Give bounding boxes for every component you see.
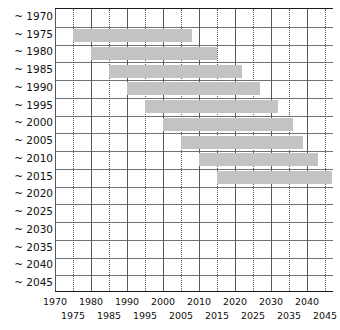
- y-axis-label: ~ 1980: [1, 46, 53, 57]
- bar-1985: [109, 65, 242, 78]
- gridline-horizontal: [55, 222, 333, 223]
- gridline-horizontal: [55, 151, 333, 152]
- x-axis-label-major: 1990: [107, 296, 147, 307]
- y-axis-label: ~ 2005: [1, 135, 53, 146]
- gridline-horizontal: [55, 275, 333, 276]
- plot-area: [55, 8, 333, 292]
- horizontal-gridlines: [55, 9, 333, 291]
- gridline-major-2020: [235, 9, 236, 291]
- gridline-major-1980: [91, 9, 92, 291]
- x-axis-label-major: 2020: [215, 296, 255, 307]
- y-axis-label: ~ 2010: [1, 153, 53, 164]
- gridline-major-1970: [55, 9, 56, 291]
- gridline-horizontal: [55, 187, 333, 188]
- gridline-minor-2015: [217, 9, 218, 291]
- gridline-horizontal: [55, 80, 333, 81]
- gridline-horizontal: [55, 204, 333, 205]
- x-axis-label-minor: 1975: [53, 310, 93, 321]
- x-axis-label-major: 2040: [287, 296, 327, 307]
- x-axis-label-minor: 1985: [89, 310, 129, 321]
- y-axis-label: ~ 2025: [1, 206, 53, 217]
- x-axis-label-major: 2000: [143, 296, 183, 307]
- x-axis-label-major: 2010: [179, 296, 219, 307]
- gridline-minor-2025: [253, 9, 254, 291]
- gridline-horizontal: [55, 27, 333, 28]
- bar-2005: [181, 136, 303, 149]
- x-axis-label-minor: 2015: [197, 310, 237, 321]
- y-axis-label: ~ 1995: [1, 100, 53, 111]
- bar-1995: [145, 100, 278, 113]
- gridline-minor-1995: [145, 9, 146, 291]
- y-axis-label: ~ 1975: [1, 29, 53, 40]
- x-axis-label-minor: 2025: [233, 310, 273, 321]
- gridline-horizontal: [55, 98, 333, 99]
- y-axis-label: ~ 2015: [1, 171, 53, 182]
- bar-2010: [199, 153, 318, 166]
- gridline-minor-2035: [289, 9, 290, 291]
- y-axis-label: ~ 2035: [1, 242, 53, 253]
- gridline-horizontal: [55, 240, 333, 241]
- gridline-major-2040: [307, 9, 308, 291]
- x-axis-label-major: 1970: [35, 296, 75, 307]
- gridline-minor-1975: [73, 9, 74, 291]
- y-axis-label: ~ 2020: [1, 188, 53, 199]
- y-axis-label: ~ 2040: [1, 259, 53, 270]
- gridline-major-1990: [127, 9, 128, 291]
- chart-container: ~ 1970~ 1975~ 1980~ 1985~ 1990~ 1995~ 20…: [0, 0, 340, 330]
- bar-2000: [163, 118, 293, 131]
- gridline-minor-2045: [325, 9, 326, 291]
- gridline-horizontal: [55, 62, 333, 63]
- y-axis-label: ~ 1970: [1, 11, 53, 22]
- bar-1975: [73, 29, 192, 42]
- gridline-major-2030: [271, 9, 272, 291]
- x-axis-label-minor: 1995: [125, 310, 165, 321]
- gridline-minor-2005: [181, 9, 182, 291]
- bars-layer: [55, 9, 333, 291]
- y-axis-label: ~ 1985: [1, 64, 53, 75]
- y-axis-label: ~ 2030: [1, 224, 53, 235]
- gridline-minor-1985: [109, 9, 110, 291]
- gridline-major-2010: [199, 9, 200, 291]
- gridline-horizontal: [55, 116, 333, 117]
- x-axis-label-major: 2030: [251, 296, 291, 307]
- gridline-major-2000: [163, 9, 164, 291]
- y-axis-label: ~ 1990: [1, 82, 53, 93]
- x-axis-label-minor: 2045: [305, 310, 340, 321]
- gridline-horizontal: [55, 133, 333, 134]
- y-axis-label: ~ 2000: [1, 117, 53, 128]
- y-axis-label: ~ 2045: [1, 277, 53, 288]
- vertical-gridlines: [55, 9, 333, 291]
- x-axis-label-major: 1980: [71, 296, 111, 307]
- x-axis-label-minor: 2035: [269, 310, 309, 321]
- bar-1990: [127, 82, 260, 95]
- bar-2015: [217, 171, 332, 184]
- gridline-horizontal: [55, 258, 333, 259]
- x-axis-label-minor: 2005: [161, 310, 201, 321]
- gridline-horizontal: [55, 169, 333, 170]
- bar-1980: [91, 47, 217, 60]
- gridline-horizontal: [55, 45, 333, 46]
